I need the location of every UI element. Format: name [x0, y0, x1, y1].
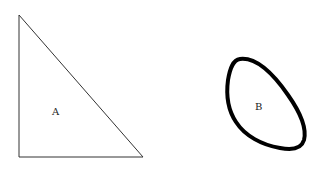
- triangle-shape-a: [19, 15, 143, 157]
- blob-label: B: [255, 101, 262, 112]
- triangle-label: A: [52, 106, 59, 117]
- diagram-canvas: [0, 0, 319, 170]
- blob-shape-b: [227, 59, 304, 149]
